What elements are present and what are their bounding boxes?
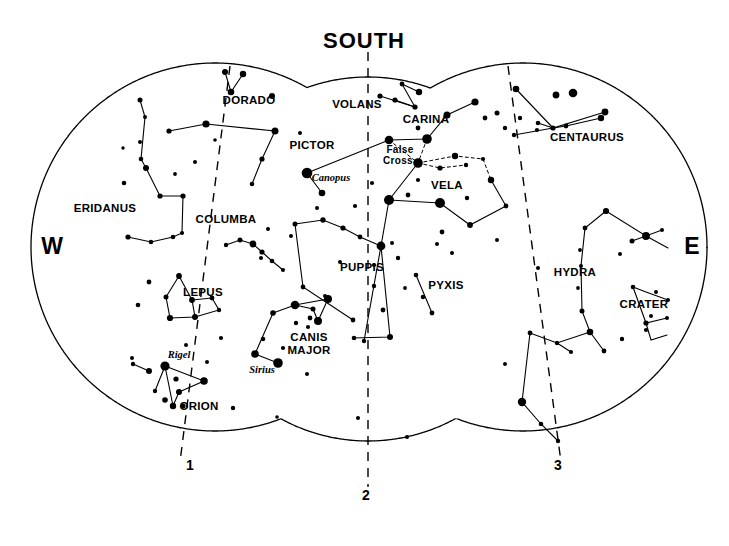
star-dot <box>305 372 309 376</box>
star-dot <box>306 325 310 329</box>
star-dot <box>602 109 609 116</box>
star-dot <box>372 284 376 288</box>
star-dot <box>176 273 182 279</box>
star-dot <box>147 280 152 285</box>
star-dot <box>416 89 422 95</box>
star-dot <box>238 238 243 243</box>
star-dot <box>149 240 154 245</box>
star-dot <box>143 165 149 171</box>
star-dot <box>569 350 573 354</box>
star-dot <box>385 136 394 145</box>
star-dot <box>193 160 197 164</box>
star-dot <box>250 182 255 187</box>
star-dot <box>495 238 499 242</box>
meridian-3 <box>508 66 561 462</box>
star-dot <box>293 222 298 227</box>
star-dot <box>213 138 217 142</box>
star-dot <box>275 415 279 419</box>
constellation-line <box>606 211 662 236</box>
constellation-label-vela: VELA <box>431 179 463 191</box>
star-dot <box>121 146 124 149</box>
star-dot <box>414 273 419 278</box>
star-dot <box>392 97 397 102</box>
star-dot <box>578 248 582 252</box>
star-dot <box>222 69 228 75</box>
star-dot <box>535 128 539 132</box>
star-dot <box>583 226 588 231</box>
star-dot <box>412 104 417 109</box>
star-dot <box>176 389 182 395</box>
hour-marker-3: 3 <box>554 457 562 473</box>
star-dot <box>356 416 360 420</box>
star-dot <box>200 377 208 385</box>
star-dot <box>464 163 468 167</box>
star-dot <box>503 126 507 130</box>
star-chart-root: SOUTH W E DORADOVOLANSCARINACENTAURUSPIC… <box>0 0 729 546</box>
star-dot <box>270 259 275 264</box>
star-dot <box>512 133 516 137</box>
star-dot <box>315 206 319 210</box>
star-dot <box>377 242 386 251</box>
star-dot <box>139 157 144 162</box>
star-dot <box>654 290 658 294</box>
star-dot <box>298 131 302 135</box>
star-dot <box>173 376 178 381</box>
constellation-label-pyxis: PYXIS <box>428 279 463 291</box>
star-dot <box>481 157 485 161</box>
horizon-outline <box>31 63 707 441</box>
star-dot <box>251 350 259 358</box>
constellation-label-puppis: PUPPIS <box>340 261 384 273</box>
star-dot <box>324 295 332 303</box>
star-dot <box>167 315 173 321</box>
star-dot <box>518 398 526 406</box>
star-dot <box>381 308 386 313</box>
star-dot <box>143 115 147 119</box>
star-dot <box>217 308 221 312</box>
star-dot <box>550 125 555 130</box>
constellation-line <box>557 343 571 352</box>
star-dot <box>308 316 313 321</box>
star-dot <box>495 111 500 116</box>
constellation-label-columba: COLUMBA <box>196 213 257 225</box>
star-dot <box>437 165 442 170</box>
asterism-label-false: False <box>386 144 413 155</box>
star-dot <box>539 422 544 427</box>
star-dot <box>259 156 264 161</box>
constellation-label-canis: CANIS <box>290 331 327 343</box>
star-dot <box>131 362 135 366</box>
star-dot <box>164 295 169 300</box>
star-dot <box>170 403 176 409</box>
star-dot <box>240 71 246 77</box>
star-dot <box>259 249 264 254</box>
star-dot <box>122 181 127 186</box>
star-dot <box>483 116 488 121</box>
constellation-label-major: MAJOR <box>287 344 330 356</box>
star-dot <box>630 239 635 244</box>
star-dot <box>467 222 473 228</box>
star-dot <box>289 234 293 238</box>
asterism-labels: FalseCross <box>383 144 414 166</box>
star-dot <box>553 92 560 99</box>
star-dot <box>166 128 171 133</box>
star-dot <box>301 285 306 290</box>
star-dot <box>180 193 185 198</box>
star-dot <box>518 116 522 120</box>
constellation-line <box>380 84 419 107</box>
star-dot <box>603 208 609 214</box>
star-dot <box>160 361 169 370</box>
star-dot <box>450 251 454 255</box>
constellation-line <box>262 131 275 159</box>
star-dot <box>340 225 345 230</box>
star-dot <box>153 389 157 393</box>
star-dot <box>536 266 540 270</box>
star-dot <box>202 120 209 127</box>
star-dot <box>536 121 541 126</box>
star-dot <box>352 336 357 341</box>
star-dot <box>362 339 366 343</box>
star-dot <box>358 235 363 240</box>
star-dot <box>266 227 270 231</box>
star-dot <box>370 181 374 185</box>
star-dot <box>649 314 653 318</box>
star-dot <box>320 217 325 222</box>
star-dot <box>564 124 569 129</box>
